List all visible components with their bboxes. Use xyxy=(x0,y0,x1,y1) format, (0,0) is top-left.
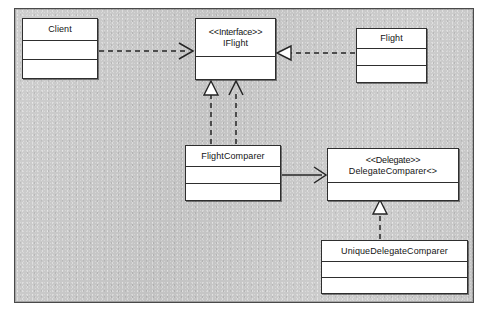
class-operations-compartment xyxy=(186,183,280,200)
class-members-compartment xyxy=(196,56,275,79)
class-stereotype-label: <<Interface>> xyxy=(209,27,262,38)
class-name-label: FlightComparer xyxy=(201,151,264,162)
uml-class-client[interactable]: Client xyxy=(22,18,98,79)
diagram-page: IFlight : dashed, open arrowhead --> IFl… xyxy=(0,0,490,320)
class-name-label: DelegateComparer<> xyxy=(349,166,437,177)
class-name-compartment: Flight xyxy=(357,29,426,48)
class-name-label: IFlight xyxy=(223,38,248,49)
uml-class-iflight[interactable]: <<Interface>> IFlight xyxy=(195,18,276,80)
class-name-label: Flight xyxy=(380,33,403,44)
class-name-compartment: FlightComparer xyxy=(186,146,280,166)
class-operations-compartment xyxy=(322,277,467,293)
class-name-label: UniqueDelegateComparer xyxy=(341,246,448,257)
uml-class-flight[interactable]: Flight xyxy=(356,28,427,83)
class-name-compartment: <<Interface>> IFlight xyxy=(196,19,275,56)
class-members-compartment xyxy=(328,182,458,200)
uml-class-flightcomparer[interactable]: FlightComparer xyxy=(185,145,281,201)
class-stereotype-label: <<Delegate>> xyxy=(366,155,421,166)
class-attributes-compartment xyxy=(23,40,97,59)
class-name-label: Client xyxy=(48,24,72,35)
class-operations-compartment xyxy=(23,59,97,78)
class-attributes-compartment xyxy=(186,166,280,183)
class-name-compartment: <<Delegate>> DelegateComparer<> xyxy=(328,149,458,182)
uml-class-uniquedelegatecomparer[interactable]: UniqueDelegateComparer xyxy=(321,240,468,294)
class-operations-compartment xyxy=(357,65,426,82)
uml-class-delegatecomparer[interactable]: <<Delegate>> DelegateComparer<> xyxy=(327,148,459,201)
class-attributes-compartment xyxy=(322,261,467,277)
class-name-compartment: Client xyxy=(23,19,97,40)
class-name-compartment: UniqueDelegateComparer xyxy=(322,241,467,261)
class-attributes-compartment xyxy=(357,48,426,65)
